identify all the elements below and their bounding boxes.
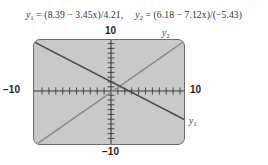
equation-y1: y1 = (8.39 − 3.45x)/4.21, [26,9,123,20]
graph-figure: y1 = (8.39 − 3.45x)/4.21, y2 = (6.18 − 7… [0,0,268,165]
curve-label-y1: y1 [189,117,197,128]
equation-y1-subscript: 1 [30,14,34,21]
curve-label-y2: y2 [162,29,170,40]
axis-label-top: 10 [0,26,221,36]
equation-y2-subscript: 2 [140,14,144,21]
curve-label-y1-subscript: 1 [193,120,196,127]
curve-label-y2-subscript: 2 [166,32,169,39]
axis-label-bottom: −10 [0,147,221,157]
equation-y2: y2 = (6.18 − 7.12x)/(−5.43) [135,9,242,20]
plot-area [33,39,185,145]
equation-caption: y1 = (8.39 − 3.45x)/4.21, y2 = (6.18 − 7… [0,9,268,21]
curve-y1 [34,42,185,121]
plot-canvas [34,40,185,145]
equation-y2-expression: = (6.18 − 7.12x)/(−5.43) [146,9,242,20]
axis-label-left: −10 [3,85,20,95]
equation-y1-expression: = (8.39 − 3.45x)/4.21, [36,9,123,20]
axis-label-right: 10 [190,85,201,95]
